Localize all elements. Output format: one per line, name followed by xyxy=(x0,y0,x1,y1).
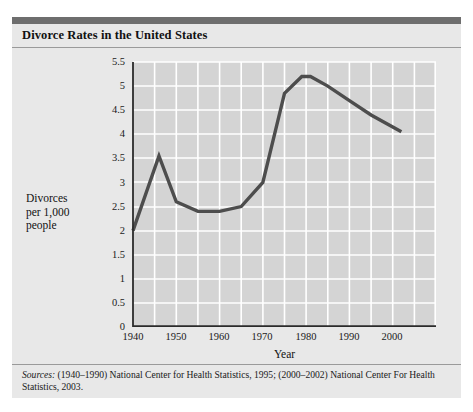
figure-header-bar xyxy=(12,17,461,24)
y-tick-label-2: 2 xyxy=(85,226,125,236)
x-axis-label: Year xyxy=(133,348,436,360)
plot-area xyxy=(133,62,436,327)
x-tick-label-1960: 1960 xyxy=(197,331,241,342)
y-tick-label-1.5: 1.5 xyxy=(85,250,125,260)
sources-label: Sources: xyxy=(22,369,55,380)
sources-divider xyxy=(12,364,461,365)
x-tick-label-1980: 1980 xyxy=(284,331,328,342)
y-tick-label-0.5: 0.5 xyxy=(85,298,125,308)
gridlines-vertical xyxy=(155,62,436,327)
chart-area: Divorces per 1,000 people 5.5 5 4.5 4 3.… xyxy=(12,48,461,368)
chart-svg xyxy=(133,62,436,327)
x-tick-label-2000: 2000 xyxy=(370,331,414,342)
y-tick-label-4.5: 4.5 xyxy=(85,105,125,115)
y-tick-label-1: 1 xyxy=(85,274,125,284)
y-tick-label-5: 5 xyxy=(85,81,125,91)
y-tick-label-5.5: 5.5 xyxy=(85,57,125,67)
y-tick-label-3.5: 3.5 xyxy=(85,153,125,163)
x-tick-label-1990: 1990 xyxy=(327,331,371,342)
sources-text: (1940–1990) National Center for Health S… xyxy=(22,369,435,392)
sources-note: Sources: (1940–1990) National Center for… xyxy=(22,369,454,392)
y-tick-label-3: 3 xyxy=(85,178,125,188)
y-tick-label-2.5: 2.5 xyxy=(85,202,125,212)
x-tick-label-1940: 1940 xyxy=(111,331,155,342)
page-title: Divorce Rates in the United States xyxy=(22,28,207,43)
x-tick-label-1950: 1950 xyxy=(154,331,198,342)
y-tick-label-4: 4 xyxy=(85,129,125,139)
x-tick-label-1970: 1970 xyxy=(240,331,284,342)
chart-figure: Divorce Rates in the United States Divor… xyxy=(12,17,461,398)
